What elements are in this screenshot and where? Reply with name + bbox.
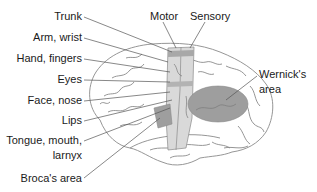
- label-sensory: Sensory: [190, 10, 230, 23]
- brain-diagram: Motor Sensory Trunk Arm, wrist Hand, fin…: [0, 0, 317, 192]
- label-lips: Lips: [62, 114, 82, 127]
- label-larnyx: larnyx: [53, 149, 82, 162]
- label-wernicks: Wernick's: [259, 68, 306, 81]
- label-brocas-area: Broca's area: [21, 172, 82, 185]
- label-arm-wrist: Arm, wrist: [33, 31, 82, 44]
- label-trunk: Trunk: [54, 10, 82, 23]
- label-motor: Motor: [150, 10, 178, 23]
- label-hand-fingers: Hand, fingers: [17, 52, 82, 65]
- strip-band-middle: [167, 81, 193, 87]
- label-tongue-mouth: Tongue, mouth,: [6, 134, 82, 147]
- brocas-region: [154, 104, 172, 128]
- wernickes-region: [188, 86, 248, 122]
- label-eyes: Eyes: [58, 73, 82, 86]
- label-face-nose: Face, nose: [28, 94, 82, 107]
- strip-band-upper: [168, 50, 194, 57]
- label-wernicks-area: area: [259, 83, 281, 96]
